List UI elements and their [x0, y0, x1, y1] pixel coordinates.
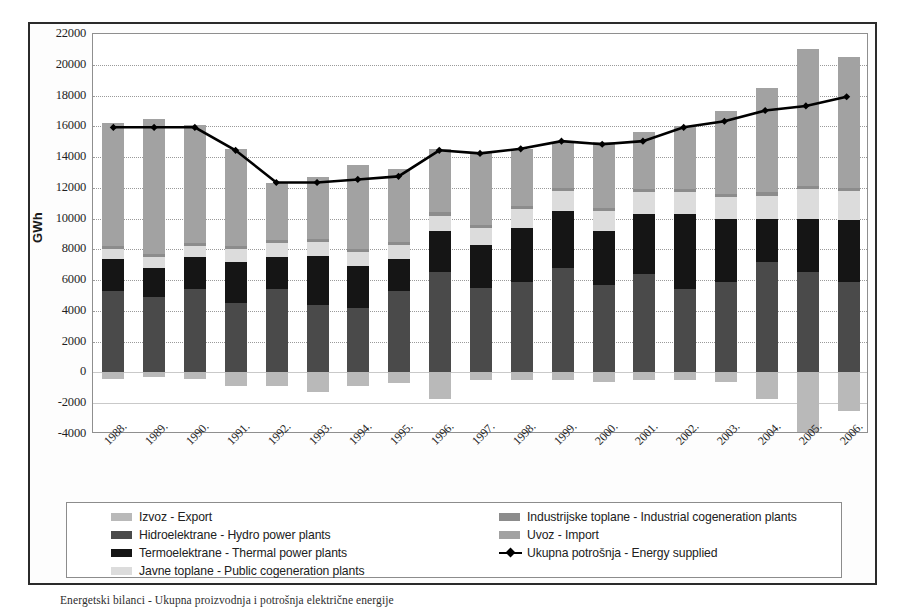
bar-segment-negative	[307, 372, 329, 392]
legend-line-icon	[499, 548, 522, 558]
bar-segment	[143, 257, 165, 268]
y-axis-tick: 12000	[56, 179, 86, 194]
figure-root: GWh 220002000018000160001400012000100008…	[0, 0, 906, 615]
legend-item-label: Termoelektrane - Thermal power plants	[139, 546, 347, 560]
bar-segment	[102, 246, 124, 249]
y-axis-tick: 6000	[62, 272, 86, 287]
bar-group	[429, 34, 451, 432]
bar-group	[756, 34, 778, 432]
bar-segment-negative	[674, 372, 696, 380]
bar-segment	[797, 49, 819, 186]
bar-segment	[347, 252, 369, 266]
bar-segment	[347, 249, 369, 252]
bar-segment	[266, 289, 288, 372]
bar-group	[552, 34, 574, 432]
bar-segment	[388, 291, 410, 373]
legend-item: Industrijske toplane - Industrial cogene…	[499, 508, 849, 525]
bar-group	[307, 34, 329, 432]
bar-segment	[838, 191, 860, 220]
bar-segment-negative	[715, 372, 737, 381]
bar-segment	[225, 149, 247, 246]
bar-segment	[429, 149, 451, 212]
bar-segment	[674, 289, 696, 372]
bar-group	[184, 34, 206, 432]
bar-segment	[633, 189, 655, 192]
bar-segment-negative	[511, 372, 533, 380]
bar-segment	[143, 254, 165, 257]
bar-segment	[470, 228, 492, 245]
bar-segment	[838, 220, 860, 282]
y-axis-tick: 4000	[62, 302, 86, 317]
bar-segment	[266, 257, 288, 289]
bar-segment	[756, 88, 778, 193]
legend-item: Hidroelektrane - Hydro power plants	[111, 526, 481, 543]
bar-segment	[593, 142, 615, 208]
bar-group	[225, 34, 247, 432]
bar-segment	[633, 132, 655, 189]
bar-group	[511, 34, 533, 432]
bar-segment	[511, 282, 533, 373]
bar-segment-negative	[593, 372, 615, 381]
legend-column-right: Industrijske toplane - Industrial cogene…	[499, 508, 849, 562]
bar-segment	[470, 245, 492, 288]
bar-group	[797, 34, 819, 432]
y-axis-tick: 0	[80, 364, 86, 379]
legend-item: Termoelektrane - Thermal power plants	[111, 544, 481, 561]
bar-segment	[552, 268, 574, 373]
bar-segment-negative	[102, 372, 124, 378]
bar-segment	[593, 208, 615, 211]
bar-segment	[429, 231, 451, 273]
bar-segment	[307, 305, 329, 373]
bar-segment	[266, 240, 288, 243]
bar-segment-negative	[347, 372, 369, 386]
bar-group	[143, 34, 165, 432]
bar-segment	[184, 125, 206, 243]
legend-item-label: Izvoz - Export	[139, 510, 212, 524]
bar-group	[593, 34, 615, 432]
bar-segment	[143, 297, 165, 372]
legend-swatch	[111, 549, 132, 557]
y-axis-tick: 2000	[62, 333, 86, 348]
bar-segment	[715, 282, 737, 373]
bar-segment	[715, 111, 737, 194]
bar-segment	[797, 219, 819, 273]
bar-segment	[225, 249, 247, 261]
bar-segment	[102, 123, 124, 246]
bar-segment	[470, 288, 492, 373]
bar-segment-negative	[470, 372, 492, 380]
legend-item-label: Ukupna potrošnja - Energy supplied	[527, 546, 717, 560]
y-axis-tick: 10000	[56, 210, 86, 225]
legend-swatch	[499, 513, 520, 521]
bar-segment	[593, 285, 615, 373]
bar-segment-negative	[429, 372, 451, 398]
bar-segment	[388, 245, 410, 259]
bar-segment	[225, 303, 247, 372]
x-axis-tick-labels: 1988.1989.1990.1991.1992.1993.1994.1995.…	[92, 434, 868, 494]
figure-caption: Energetski bilanci - Ukupna proizvodnja …	[60, 594, 880, 615]
plot-wrapper: GWh 220002000018000160001400012000100008…	[30, 24, 875, 583]
bar-segment	[143, 268, 165, 297]
bar-segment	[715, 194, 737, 197]
bar-segment	[266, 243, 288, 257]
legend-swatch	[499, 531, 520, 539]
legend-swatch	[111, 531, 132, 539]
y-axis-tick-labels: 2200020000180001600014000120001000080006…	[30, 33, 90, 433]
bar-group	[674, 34, 696, 432]
legend-item: Uvoz - Import	[499, 526, 849, 543]
bar-segment	[225, 246, 247, 249]
bar-segment-negative	[756, 372, 778, 398]
bar-segment	[307, 242, 329, 256]
bar-segment	[715, 197, 737, 219]
bar-segment	[838, 57, 860, 188]
y-axis-tick: 14000	[56, 149, 86, 164]
bar-segment	[797, 272, 819, 372]
legend-column-left: Izvoz - ExportHidroelektrane - Hydro pow…	[111, 508, 481, 580]
bar-segment-negative	[184, 372, 206, 378]
bar-segment	[307, 239, 329, 242]
bar-segment	[797, 189, 819, 218]
bar-segment	[429, 212, 451, 215]
bar-segment	[511, 209, 533, 227]
y-axis-tick: 20000	[56, 56, 86, 71]
bar-segment	[143, 119, 165, 254]
bar-segment	[429, 272, 451, 372]
